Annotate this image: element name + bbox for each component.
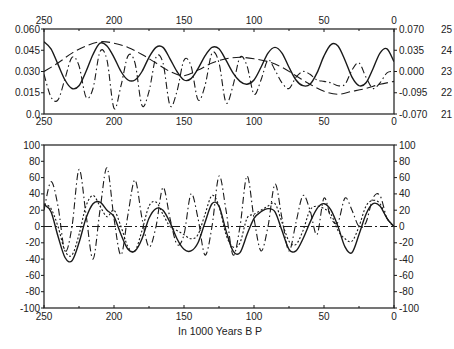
x-tick-label-bottom: 150 <box>176 311 193 322</box>
y-tick-label-right-outer: 23 <box>441 66 453 77</box>
y-tick-label-left: -60 <box>26 270 41 281</box>
y-tick-label-right: 0 <box>399 221 405 232</box>
y-tick-label-right: -60 <box>399 270 414 281</box>
x-tick-label-bottom: 150 <box>176 116 193 127</box>
lower-chart: 100100808060604040202000-20-20-40-40-60-… <box>20 140 419 323</box>
y-tick-label-right-inner: 0.000 <box>399 66 424 77</box>
y-tick-label-right-inner: -0.095 <box>399 87 428 98</box>
x-tick-label-bottom: 0 <box>391 116 397 127</box>
y-tick-label-left: 0.0 <box>26 109 40 120</box>
x-tick-label-bottom: 50 <box>318 116 330 127</box>
x-tick-label-bottom: 100 <box>246 311 263 322</box>
x-tick-label-top: 150 <box>176 15 193 26</box>
y-tick-label-right: -40 <box>399 254 414 265</box>
chart-figure: 2502502002001501501001005050000.0600.070… <box>0 0 454 349</box>
y-tick-label-right-outer: 25 <box>441 24 453 35</box>
x-tick-label-top: 50 <box>318 15 330 26</box>
x-tick-label-bottom: 100 <box>246 116 263 127</box>
y-tick-label-left: -40 <box>26 254 41 265</box>
x-tick-label-top: 200 <box>106 15 123 26</box>
x-tick-label-bottom: 50 <box>318 311 330 322</box>
y-tick-label-left: -80 <box>26 286 41 297</box>
x-tick-label-bottom: 0 <box>391 311 397 322</box>
y-tick-label-right: 60 <box>399 172 411 183</box>
y-tick-label-right: -80 <box>399 286 414 297</box>
y-tick-label-right: 40 <box>399 188 411 199</box>
series-dotted <box>44 195 394 256</box>
y-tick-label-left: 0.045 <box>15 45 40 56</box>
y-tick-label-left: 100 <box>23 140 40 151</box>
upper-plot-frame <box>44 29 394 114</box>
upper-chart: 2502502002001501501001005050000.0600.070… <box>15 15 452 127</box>
y-tick-label-right: -20 <box>399 237 414 248</box>
y-tick-label-right: 100 <box>399 140 416 151</box>
y-tick-label-right: -100 <box>399 303 419 314</box>
y-tick-label-left: -20 <box>26 237 41 248</box>
x-axis-label: In 1000 Years B P <box>178 325 262 337</box>
series-dash-dot <box>44 50 394 109</box>
y-tick-label-right: 20 <box>399 205 411 216</box>
y-tick-label-left: 60 <box>29 172 41 183</box>
x-tick-label-bottom: 200 <box>106 311 123 322</box>
x-tick-label-top: 0 <box>391 15 397 26</box>
y-tick-label-right-inner: 0.035 <box>399 45 424 56</box>
y-tick-label-right-inner: -0.070 <box>399 109 428 120</box>
y-tick-label-right-outer: 22 <box>441 87 453 98</box>
y-tick-label-left: 0 <box>34 221 40 232</box>
y-tick-label-left: 40 <box>29 188 41 199</box>
series-dash-dot <box>44 168 394 259</box>
y-tick-label-left: 20 <box>29 205 41 216</box>
y-tick-label-right-inner: 0.070 <box>399 24 424 35</box>
y-tick-label-right-outer: 21 <box>441 109 453 120</box>
y-tick-label-left: 80 <box>29 156 41 167</box>
x-tick-label-bottom: 250 <box>36 311 53 322</box>
y-tick-label-left: 0.015 <box>15 87 40 98</box>
y-tick-label-left: 0.060 <box>15 24 40 35</box>
x-tick-label-top: 100 <box>246 15 263 26</box>
y-tick-label-right: 80 <box>399 156 411 167</box>
y-tick-label-right-outer: 24 <box>441 45 453 56</box>
y-tick-label-left: 0.030 <box>15 66 40 77</box>
x-tick-label-bottom: 200 <box>106 116 123 127</box>
